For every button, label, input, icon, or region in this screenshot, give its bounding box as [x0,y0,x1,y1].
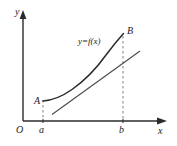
origin-label: O [16,125,23,135]
x-tick-label-a: a [39,125,44,135]
curve-equation-label: y=f(x) [78,37,101,46]
x-axis-label: x [158,126,162,136]
point-label-b: B [127,26,133,36]
point-label-a: A [34,96,40,106]
figure-canvas [0,0,177,146]
x-axis [23,117,167,124]
x-tick-label-b: b [119,125,124,135]
math-figure: y x O a b A B y=f(x) [0,0,177,146]
y-axis [20,10,27,121]
tangent-secant-line [52,51,140,115]
y-axis-label: y [15,7,19,17]
